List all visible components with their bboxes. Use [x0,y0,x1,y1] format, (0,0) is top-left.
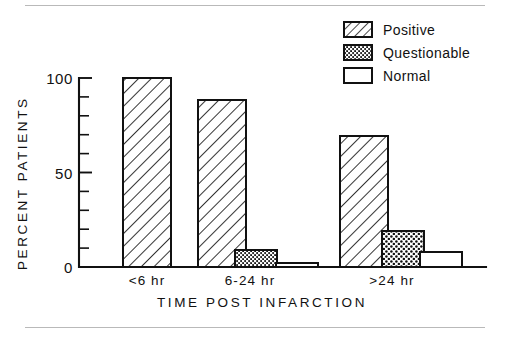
x-category-label-2: >24 hr [369,273,414,288]
bar-positive-group-2 [340,136,388,267]
legend: Positive Questionable Normal [344,22,470,84]
legend-item-positive: Positive [344,22,435,38]
figure-container: PERCENT PATIENTS 100 50 0 <6 hr 6-24 [0,0,507,337]
bar-normal-group-1 [276,263,318,267]
dots-swatch [344,45,372,60]
bar-questionable-group-1 [235,250,277,267]
hatch-swatch [344,22,372,37]
bar-positive-group-0 [123,78,171,267]
y-tick-label-0: 0 [64,259,73,276]
legend-label-normal: Normal [383,68,431,84]
legend-label-questionable: Questionable [383,45,470,61]
y-tick-label-100: 100 [46,70,73,87]
x-axis-title: TIME POST INFARCTION [157,295,367,310]
bar-normal-group-2 [420,252,462,267]
y-axis-title: PERCENT PATIENTS [15,96,30,270]
empty-swatch [344,68,372,83]
bar-chart: PERCENT PATIENTS 100 50 0 <6 hr 6-24 [0,0,507,337]
legend-item-questionable: Questionable [344,45,470,61]
legend-label-positive: Positive [383,22,435,38]
legend-item-normal: Normal [344,68,431,84]
x-category-label-0: <6 hr [129,273,166,288]
bar-positive-group-1 [198,100,246,267]
y-tick-label-50: 50 [55,165,73,182]
x-category-label-1: 6-24 hr [225,273,275,288]
bar-questionable-group-2 [382,231,424,267]
